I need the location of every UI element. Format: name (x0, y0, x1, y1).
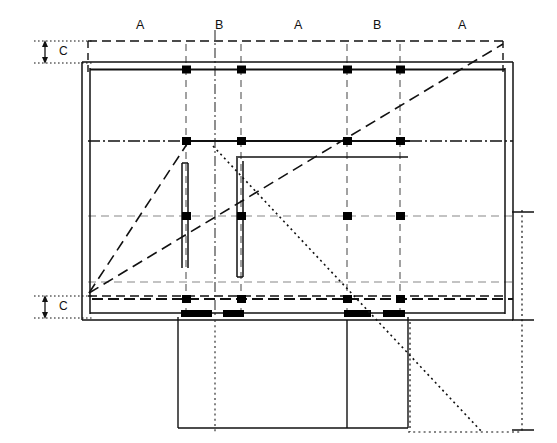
node-r4-c1 (182, 295, 191, 303)
right-dimension-ticks (512, 212, 534, 430)
node-r1-c3 (343, 66, 352, 74)
node-r4-c4 (396, 295, 405, 303)
node-r4-c3 (343, 295, 352, 303)
wall-segment-2 (223, 310, 244, 317)
node-r2-c3 (343, 137, 352, 145)
bay-label-5: A (458, 19, 466, 32)
node-r1-c1 (182, 66, 191, 74)
bay-label-1: A (136, 19, 144, 32)
grid-lines-horizontal (88, 216, 513, 282)
node-r2-c2 (237, 137, 246, 145)
dimension-label-bottom-c: C (59, 300, 68, 312)
node-r1-c4 (396, 66, 405, 74)
node-r3-c2 (237, 212, 246, 220)
wall-segment-3 (344, 310, 371, 317)
bay-label-2: B (215, 19, 223, 32)
node-r3-c1 (182, 212, 191, 220)
node-r3-c4 (396, 212, 405, 220)
grid-lines-vertical (186, 44, 400, 318)
node-r3-c3 (343, 212, 352, 220)
diagonal-brace-long (89, 44, 503, 293)
diagonal-brace-short (89, 144, 187, 293)
bay-label-4: B (373, 19, 381, 32)
wall-segment-1 (181, 310, 212, 317)
node-r2-c4 (396, 137, 405, 145)
bay-label-3: A (294, 19, 302, 32)
wall-segment-4 (383, 310, 405, 317)
node-r2-c1 (182, 137, 191, 145)
node-r1-c2 (237, 66, 246, 74)
diagram-canvas: A B A B A C C (0, 0, 557, 443)
plan-drawing (0, 0, 557, 443)
lower-annex-block (178, 317, 408, 428)
dimension-label-top-c: C (59, 45, 68, 57)
outer-wall-envelope (82, 62, 513, 320)
node-r4-c2 (237, 295, 246, 303)
